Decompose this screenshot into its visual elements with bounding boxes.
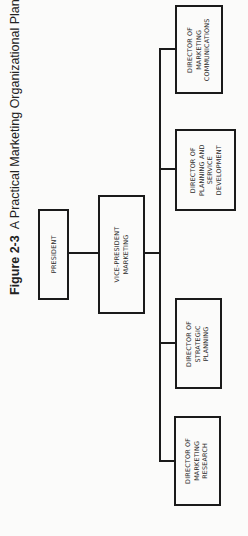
- branch-research: [159, 460, 175, 462]
- figure-title: A Practical Marketing Organizational Pla…: [8, 0, 22, 229]
- president-box: PRESIDENT: [38, 209, 69, 300]
- director-communications-label: DIRECTOR OF MARKETING COMMUNICATIONS: [186, 18, 212, 81]
- director-planning-service-box: DIRECTOR OF PLANNING AND SERVICE DEVELOP…: [175, 129, 236, 211]
- director-communications-box: DIRECTOR OF MARKETING COMMUNICATIONS: [175, 5, 223, 94]
- branch-planning-service: [159, 168, 176, 170]
- director-strategic-box: DIRECTOR OF STRATEGIC PLANNING: [175, 298, 222, 389]
- director-research-label: DIRECTOR OF MARKETING RESEARCH: [185, 438, 211, 484]
- connector-president-vp: [68, 252, 100, 254]
- president-label: PRESIDENT: [49, 236, 58, 274]
- branch-strategic: [159, 342, 176, 344]
- vice-president-label: VICE-PRESIDENT MARKETING: [113, 227, 130, 283]
- vice-president-box: VICE-PRESIDENT MARKETING: [98, 195, 145, 314]
- figure-caption: Figure 2-3A Practical Marketing Organiza…: [7, 25, 23, 295]
- director-planning-service-label: DIRECTOR OF PLANNING AND SERVICE DEVELOP…: [188, 144, 222, 196]
- director-strategic-label: DIRECTOR OF STRATEGIC PLANNING: [186, 320, 212, 366]
- branch-communications: [159, 48, 176, 50]
- director-bus-line: [159, 48, 161, 462]
- director-research-box: DIRECTOR OF MARKETING RESEARCH: [174, 416, 221, 506]
- figure-label: Figure 2-3: [8, 235, 22, 295]
